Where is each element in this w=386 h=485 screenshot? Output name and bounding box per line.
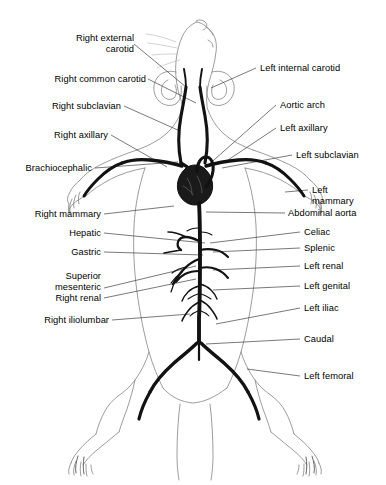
label-abdominal-aorta: Abdominal aorta (288, 208, 356, 219)
label-text-line1: Caudal (304, 334, 334, 344)
label-gastric: Gastric (0, 247, 101, 258)
label-text-line1: Left internal carotid (260, 63, 340, 73)
label-layer: Right external carotid Right common caro… (0, 0, 386, 485)
label-right-renal: Right renal (0, 293, 101, 304)
label-right-subclavian: Right subclavian (0, 101, 121, 112)
label-text-line1: Right axillary (54, 130, 108, 140)
label-left-mammary: Left mammary (312, 185, 354, 207)
label-text-line2: mammary (312, 196, 354, 207)
label-text-line1: Left subclavian (296, 150, 359, 160)
label-brachiocephalic: Brachiocephalic (0, 163, 92, 174)
label-text-line1: Right common carotid (55, 74, 146, 84)
label-aortic-arch: Aortic arch (280, 100, 325, 111)
label-text-line1: Left femoral (304, 371, 354, 381)
label-text-line1: Right external (76, 33, 134, 43)
label-left-iliac: Left iliac (304, 303, 339, 314)
label-text-line1: Right iliolumbar (44, 315, 109, 325)
label-right-mammary: Right mammary (0, 209, 101, 220)
label-left-subclavian: Left subclavian (296, 150, 359, 161)
label-text-line1: Gastric (71, 247, 101, 257)
label-left-renal: Left renal (304, 261, 343, 272)
label-text-line1: Left iliac (304, 303, 339, 313)
label-text-line1: Hepatic (69, 228, 101, 238)
label-text-line2: mesenteric (0, 282, 101, 293)
label-text-line1: Aortic arch (280, 100, 325, 110)
label-hepatic: Hepatic (0, 228, 101, 239)
label-right-external-carotid: Right external carotid (0, 33, 134, 55)
label-superior-mesenteric: Superior mesenteric (0, 271, 101, 293)
anatomical-figure: Right external carotid Right common caro… (0, 0, 386, 485)
label-right-common-carotid: Right common carotid (0, 74, 146, 85)
label-text-line1: Right subclavian (52, 101, 121, 111)
label-text-line1: Left (312, 185, 328, 195)
label-left-internal-carotid: Left internal carotid (260, 63, 340, 74)
label-text-line1: Right mammary (35, 209, 101, 219)
label-text-line2: carotid (0, 44, 134, 55)
label-left-axillary: Left axillary (280, 123, 328, 134)
label-text-line1: Celiac (304, 227, 330, 237)
label-caudal: Caudal (304, 334, 334, 345)
label-splenic: Splenic (304, 243, 335, 254)
label-text-line1: Left axillary (280, 123, 328, 133)
label-celiac: Celiac (304, 227, 330, 238)
label-text-line1: Splenic (304, 243, 335, 253)
label-text-line1: Abdominal aorta (288, 208, 356, 218)
label-text-line1: Superior (65, 271, 101, 281)
label-right-axillary: Right axillary (0, 130, 108, 141)
label-text-line1: Brachiocephalic (26, 163, 92, 173)
label-left-genital: Left genital (304, 281, 350, 292)
label-right-iliolumbar: Right iliolumbar (0, 315, 109, 326)
label-left-femoral: Left femoral (304, 371, 354, 382)
label-text-line1: Left renal (304, 261, 343, 271)
label-text-line1: Left genital (304, 281, 350, 291)
label-text-line1: Right renal (55, 293, 101, 303)
